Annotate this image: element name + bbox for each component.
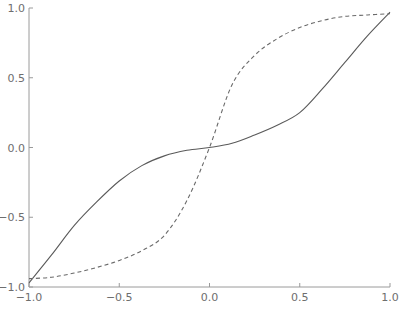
series-solid-line — [29, 12, 390, 283]
y-tick-label: 0.5 — [8, 72, 26, 85]
x-tick-label: −1.0 — [16, 291, 43, 304]
line-chart: −1.0−0.50.00.51.0 −1.0−0.50.00.51.0 — [0, 0, 401, 309]
y-tick-label: 1.0 — [8, 2, 26, 15]
series-dashed-line — [29, 14, 390, 279]
series-group — [29, 12, 390, 283]
x-tick-label: 0.5 — [291, 291, 309, 304]
y-tick-label: 0.0 — [8, 142, 26, 155]
x-ticks: −1.0−0.50.00.51.0 — [16, 283, 399, 304]
y-ticks: −1.0−0.50.00.51.0 — [0, 2, 33, 294]
x-tick-label: 1.0 — [381, 291, 399, 304]
x-tick-label: −0.5 — [106, 291, 133, 304]
x-tick-label: 0.0 — [201, 291, 219, 304]
y-tick-label: −0.5 — [0, 211, 25, 224]
axes: −1.0−0.50.00.51.0 −1.0−0.50.00.51.0 — [0, 2, 399, 304]
